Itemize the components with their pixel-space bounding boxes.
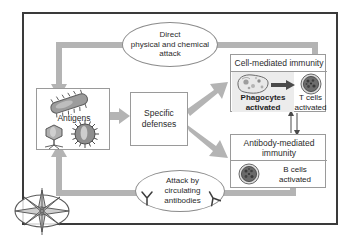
phagocytes-line1: Phagocytes bbox=[232, 93, 294, 103]
antibody-header-line2: immunity bbox=[231, 148, 327, 158]
direct-attack-callout: Direct physical and chemical attack bbox=[122, 22, 218, 67]
tcells-line2: activated bbox=[294, 103, 327, 113]
specific-defenses-box: Specific defenses bbox=[130, 92, 188, 146]
t-cell-icon bbox=[300, 73, 322, 95]
arrow-between-immunity-boxes bbox=[288, 110, 300, 136]
antibody-y-icon-left bbox=[139, 190, 155, 206]
t-cells-activated-label: T cells activated bbox=[294, 93, 327, 112]
specific-defenses-label: Specific defenses bbox=[142, 108, 177, 129]
antibody-header-line1: Antibody-mediated bbox=[231, 138, 327, 148]
antibody-y-icon-right bbox=[205, 190, 221, 206]
arrow-defenses-to-cell-mediated bbox=[186, 82, 228, 118]
direct-attack-line2: physical and chemical bbox=[131, 40, 209, 50]
antibody-attack-line2: circulating bbox=[164, 186, 200, 196]
antibody-mediated-immunity-box: Antibody-mediated immunity B cells activ… bbox=[230, 134, 326, 188]
direct-attack-line1: Direct bbox=[131, 30, 209, 40]
virus-icon bbox=[70, 119, 100, 149]
tcells-line1: T cells bbox=[294, 93, 327, 103]
bacteriophage-icon bbox=[41, 123, 67, 149]
antibody-mediated-divider bbox=[231, 160, 327, 161]
b-cells-activated-label: B cells activated bbox=[269, 165, 321, 184]
direct-attack-text: Direct physical and chemical attack bbox=[131, 30, 209, 59]
diagram-canvas: Antigens Specific defen bbox=[0, 0, 355, 238]
antibody-mediated-header: Antibody-mediated immunity bbox=[231, 138, 327, 158]
antibody-attack-text: Attack by circulating antibodies bbox=[159, 176, 200, 205]
antigens-box: Antigens bbox=[36, 88, 110, 150]
arrow-defenses-to-antibody-mediated bbox=[186, 120, 228, 158]
direct-attack-line3: attack bbox=[131, 49, 209, 59]
bcells-line1: B cells bbox=[269, 165, 321, 175]
pipe-top-left-vertical bbox=[56, 42, 62, 86]
b-cell-icon bbox=[238, 163, 260, 185]
arrow-phagocyte-to-tcell bbox=[271, 80, 295, 90]
specific-defenses-line1: Specific bbox=[142, 108, 177, 119]
bcells-line2: activated bbox=[269, 175, 321, 185]
cell-mediated-header: Cell-mediated immunity bbox=[231, 58, 327, 68]
phagocyte-cell-icon bbox=[235, 73, 271, 95]
cell-mediated-immunity-box: Cell-mediated immunity Ph bbox=[230, 54, 326, 112]
phagocytes-line2: activated bbox=[232, 103, 294, 113]
compass-rose-icon bbox=[12, 186, 72, 236]
antibody-attack-line3: antibodies bbox=[164, 196, 200, 206]
specific-defenses-line2: defenses bbox=[142, 119, 177, 130]
bacterium-icon bbox=[46, 93, 92, 113]
phagocytes-activated-label: Phagocytes activated bbox=[232, 93, 294, 112]
antibody-attack-line1: Attack by bbox=[164, 176, 200, 186]
